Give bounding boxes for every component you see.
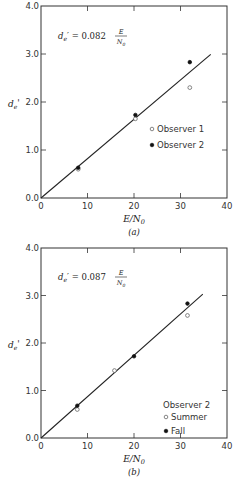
x-tick-label: 10 bbox=[82, 441, 93, 451]
x-tick-label: 20 bbox=[129, 201, 140, 211]
y-tick-label: 1.0 bbox=[25, 145, 39, 155]
legend-entry: Observer 1 bbox=[157, 124, 204, 134]
legend-entry: Fall bbox=[171, 426, 185, 436]
data-point-filled bbox=[132, 355, 136, 359]
y-tick-label: 2.0 bbox=[25, 338, 39, 348]
panel-label: (a) bbox=[128, 227, 140, 237]
x-axis-label-subscript: 0 bbox=[141, 218, 145, 226]
y-tick-label: 0.0 bbox=[25, 433, 39, 443]
y-tick-label: 3.0 bbox=[25, 49, 39, 59]
x-tick-label: 20 bbox=[129, 441, 140, 451]
y-axis-label: de' bbox=[8, 339, 20, 351]
data-point-open bbox=[186, 314, 190, 318]
equation-label: de′ = 0.087 bbox=[58, 272, 106, 283]
x-tick-label: 10 bbox=[82, 201, 93, 211]
equation-label: de′ = 0.082 bbox=[58, 31, 106, 42]
legend-marker bbox=[150, 127, 154, 131]
y-axis-label-prime: ' bbox=[17, 98, 19, 108]
data-point-open bbox=[113, 369, 117, 373]
x-axis-label: E/N0 bbox=[122, 454, 145, 466]
x-tick-label: 40 bbox=[222, 441, 233, 451]
equation-slope: ′ = 0.082 bbox=[67, 31, 106, 41]
x-tick-label: 0 bbox=[38, 441, 43, 451]
x-tick-label: 0 bbox=[38, 201, 43, 211]
equation-slope: ′ = 0.087 bbox=[67, 272, 106, 282]
data-point-filled bbox=[134, 113, 138, 117]
panel-label: (b) bbox=[128, 467, 140, 477]
chart-b: 0102030400.01.02.03.04.0E/N0de'(b)de′ = … bbox=[0, 242, 241, 484]
equation-denominator: N0 bbox=[116, 279, 126, 288]
legend-entry: Observer 2 bbox=[157, 140, 204, 150]
equation-numerator: E bbox=[118, 28, 124, 36]
y-tick-label: 3.0 bbox=[25, 291, 39, 301]
y-tick-label: 4.0 bbox=[25, 1, 39, 11]
equation-denominator-subscript: 0 bbox=[122, 42, 125, 47]
data-point-filled bbox=[186, 302, 190, 306]
x-axis-label-subscript: 0 bbox=[141, 458, 145, 466]
data-point-filled bbox=[75, 404, 79, 408]
y-tick-label: 1.0 bbox=[25, 386, 39, 396]
data-point-filled bbox=[76, 166, 80, 170]
y-tick-label: 2.0 bbox=[25, 97, 39, 107]
x-tick-label: 40 bbox=[222, 201, 233, 211]
legend-entry: Summer bbox=[171, 412, 208, 422]
data-point-open bbox=[75, 408, 79, 412]
chart-a: 0102030400.01.02.03.04.0E/N0de'(a)de′ = … bbox=[0, 0, 241, 242]
data-point-open bbox=[188, 86, 192, 90]
legend-marker bbox=[150, 143, 154, 147]
data-point-open bbox=[133, 117, 137, 121]
legend-marker bbox=[164, 415, 168, 419]
legend-title: Observer 2 bbox=[163, 400, 210, 410]
x-axis-label: E/N0 bbox=[122, 214, 145, 226]
y-tick-label: 4.0 bbox=[25, 243, 39, 253]
x-tick-label: 30 bbox=[175, 441, 186, 451]
y-axis-label-prime: ' bbox=[17, 339, 19, 349]
y-axis-label: de' bbox=[8, 98, 20, 110]
y-tick-label: 0.0 bbox=[25, 193, 39, 203]
data-point-filled bbox=[188, 60, 192, 64]
equation-denominator: N0 bbox=[116, 38, 126, 47]
x-tick-label: 30 bbox=[175, 201, 186, 211]
legend-marker bbox=[164, 429, 168, 433]
equation-denominator-subscript: 0 bbox=[122, 283, 125, 288]
equation-numerator: E bbox=[118, 269, 124, 277]
